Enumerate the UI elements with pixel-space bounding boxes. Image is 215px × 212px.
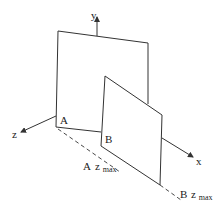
y-axis-label: y bbox=[91, 9, 97, 21]
x-axis bbox=[162, 138, 193, 157]
x-axis-label: x bbox=[196, 155, 202, 167]
z-axis-label: z bbox=[12, 128, 17, 140]
b-zmax-label: B z max bbox=[180, 188, 213, 202]
planes-diagram: y z x A B A z max B z max bbox=[0, 0, 215, 212]
a-zmax-label: A z max bbox=[83, 160, 117, 174]
b-zmax-dashed-line bbox=[160, 185, 181, 200]
back-plane bbox=[56, 31, 148, 132]
point-b-label: B bbox=[105, 133, 112, 145]
z-axis bbox=[21, 116, 56, 132]
point-a-label: A bbox=[60, 114, 68, 126]
